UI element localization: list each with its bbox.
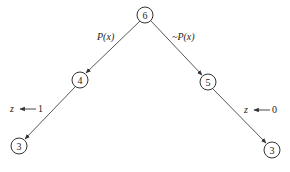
svg-text:6: 6 bbox=[143, 10, 148, 21]
assign-value-left: 1 bbox=[38, 103, 43, 114]
svg-text:3: 3 bbox=[17, 141, 22, 152]
node-left-leaf: 3 bbox=[11, 138, 27, 154]
edge-label-p-x: P(x) bbox=[96, 31, 115, 43]
edge-root-right bbox=[151, 21, 202, 75]
decision-tree-diagram: P(x) ~P(x) z 1 z 0 6 4 5 3 3 bbox=[0, 0, 290, 172]
assign-var-left: z bbox=[9, 103, 14, 114]
node-left: 4 bbox=[72, 72, 88, 88]
edge-left-leaf bbox=[25, 87, 75, 139]
assign-value-right: 0 bbox=[272, 104, 277, 115]
edge-root-left bbox=[86, 21, 140, 73]
assignment-left: z 1 bbox=[9, 103, 43, 114]
assignment-right: z 0 bbox=[243, 104, 277, 115]
node-right-leaf: 3 bbox=[264, 142, 280, 158]
svg-text:3: 3 bbox=[270, 145, 275, 156]
node-root: 6 bbox=[137, 7, 153, 23]
assign-var-right: z bbox=[243, 104, 248, 115]
node-right: 5 bbox=[200, 74, 216, 90]
edge-label-not-p-x: ~P(x) bbox=[172, 31, 195, 43]
svg-text:4: 4 bbox=[78, 75, 83, 86]
svg-text:5: 5 bbox=[206, 77, 211, 88]
edge-right-leaf bbox=[213, 89, 266, 143]
